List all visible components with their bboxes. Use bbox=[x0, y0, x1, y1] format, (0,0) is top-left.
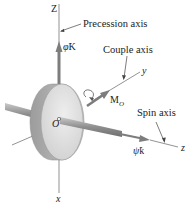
axis-label-z: z bbox=[181, 143, 185, 153]
precession-vector-shaft bbox=[58, 50, 61, 85]
precession-rate-label: φ̇K bbox=[63, 42, 76, 52]
precession-axis-label: Precession axis bbox=[83, 19, 147, 30]
spin-vector-shaft bbox=[120, 134, 142, 139]
precession-vector-head bbox=[56, 41, 63, 52]
couple-moment-subscript: O bbox=[119, 100, 124, 108]
precession-rate-unit: K bbox=[69, 41, 76, 52]
couple-moment-label: MO bbox=[110, 95, 124, 108]
axis-label-Z: Z bbox=[51, 4, 57, 14]
origin-label: O bbox=[52, 119, 59, 129]
couple-moment-symbol: M bbox=[110, 94, 119, 105]
couple-axis-label: Couple axis bbox=[103, 45, 153, 56]
couple-moment-head bbox=[100, 90, 110, 99]
couple-moment-shaft bbox=[87, 95, 103, 106]
gyroscope-diagram bbox=[0, 0, 190, 207]
spin-rate-unit: k bbox=[139, 145, 144, 156]
spin-axis-label: Spin axis bbox=[137, 108, 176, 119]
axis-label-x: x bbox=[56, 194, 60, 204]
axis-label-y: y bbox=[142, 66, 146, 76]
couple-leader bbox=[124, 56, 127, 78]
spin-vector-head bbox=[139, 135, 150, 142]
spin-rate-label: ψ̇k bbox=[133, 146, 144, 156]
